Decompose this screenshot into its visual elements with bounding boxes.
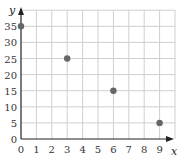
x-axis-label: x: [171, 145, 178, 158]
x-tick-label: 3: [64, 144, 70, 155]
y-tick-label: 30: [4, 37, 17, 48]
data-point: [18, 23, 24, 29]
y-tick-label: 25: [4, 54, 17, 65]
scatter-chart: 012345678905101520253035 x y: [0, 0, 181, 160]
x-tick-label: 7: [126, 144, 132, 155]
data-point: [64, 55, 70, 61]
x-tick-label: 2: [49, 144, 55, 155]
data-point: [156, 120, 162, 126]
x-tick-label: 5: [95, 144, 101, 155]
y-tick-label: 20: [4, 70, 17, 81]
tick-labels: 012345678905101520253035: [4, 21, 163, 155]
x-tick-label: 9: [156, 144, 162, 155]
x-tick-label: 8: [141, 144, 147, 155]
y-tick-label: 5: [11, 118, 17, 129]
grid: [21, 10, 175, 139]
y-tick-label: 0: [11, 134, 17, 145]
y-tick-label: 15: [4, 86, 17, 97]
y-axis-label: y: [8, 4, 16, 17]
data-point: [110, 88, 116, 94]
x-tick-label: 0: [18, 144, 24, 155]
x-tick-label: 1: [33, 144, 39, 155]
y-tick-label: 35: [4, 21, 17, 32]
y-tick-label: 10: [4, 102, 17, 113]
x-tick-label: 6: [110, 144, 116, 155]
x-tick-label: 4: [79, 144, 85, 155]
